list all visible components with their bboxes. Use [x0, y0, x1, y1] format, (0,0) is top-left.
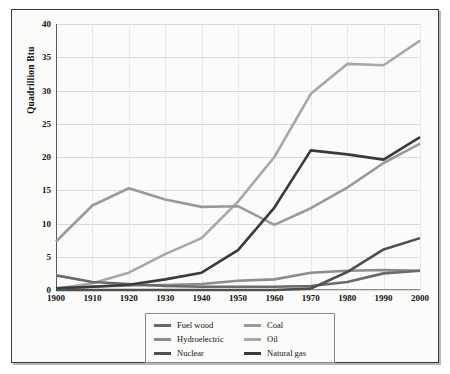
x-axis-tick-label: 1970	[302, 293, 320, 303]
x-axis-tick-label: 1960	[265, 293, 283, 303]
legend-swatch-icon	[154, 338, 171, 341]
legend-swatch-icon	[244, 324, 261, 327]
x-axis-tick-label: 1980	[338, 293, 356, 303]
legend-swatch-icon	[154, 324, 171, 327]
x-axis-tick-label: 1920	[120, 293, 138, 303]
legend-item-oil[interactable]: Oil	[244, 332, 306, 346]
y-axis-tick-label: 25	[42, 119, 51, 129]
legend-swatch-icon	[244, 352, 261, 355]
legend-label: Natural gas	[267, 349, 306, 358]
x-axis-tick-label: 1940	[193, 293, 211, 303]
y-axis-tick-label: 30	[42, 86, 51, 96]
legend-item-coal[interactable]: Coal	[244, 318, 306, 332]
x-axis-tick-label: 1910	[83, 293, 101, 303]
legend-label: Coal	[267, 321, 283, 330]
series-line-coal	[56, 144, 420, 242]
plot-area: 0510152025303540190019101920193019401950…	[56, 24, 420, 290]
x-axis-tick-label: 1900	[47, 293, 65, 303]
chart-canvas: Quadrillion Btu 051015202530354019001910…	[12, 10, 438, 362]
legend-item-fuel-wood[interactable]: Fuel wood	[154, 318, 224, 332]
chart-frame: Quadrillion Btu 051015202530354019001910…	[11, 9, 439, 363]
y-axis-tick-label: 10	[42, 219, 51, 229]
y-axis-title: Quadrillion Btu	[26, 0, 36, 114]
y-axis-tick-label: 40	[42, 19, 51, 29]
legend-label: Nuclear	[177, 349, 204, 358]
y-axis-tick-label: 20	[42, 152, 51, 162]
y-axis-tick-label: 15	[42, 185, 51, 195]
x-axis-tick-label: 1930	[156, 293, 174, 303]
legend-item-nuclear[interactable]: Nuclear	[154, 346, 224, 360]
legend-label: Oil	[267, 335, 278, 344]
legend-column-2: CoalOilNatural gas	[244, 318, 306, 360]
legend-swatch-icon	[244, 338, 261, 341]
legend-label: Fuel wood	[177, 321, 213, 330]
legend-label: Hydroelectric	[177, 335, 224, 344]
x-axis-tick-label: 1990	[375, 293, 393, 303]
legend-swatch-icon	[154, 352, 171, 355]
x-axis-tick-label: 1950	[229, 293, 247, 303]
chart-legend: Fuel woodHydroelectricNuclear CoalOilNat…	[145, 313, 335, 363]
x-axis-tick-label: 2000	[411, 293, 429, 303]
series-lines	[56, 24, 420, 290]
gridline-x	[420, 24, 421, 290]
legend-column-1: Fuel woodHydroelectricNuclear	[154, 318, 224, 360]
legend-item-natural-gas[interactable]: Natural gas	[244, 346, 306, 360]
legend-item-hydroelectric[interactable]: Hydroelectric	[154, 332, 224, 346]
y-axis-tick-label: 35	[42, 52, 51, 62]
series-line-natural-gas	[56, 137, 420, 288]
y-axis-tick-label: 5	[47, 252, 52, 262]
